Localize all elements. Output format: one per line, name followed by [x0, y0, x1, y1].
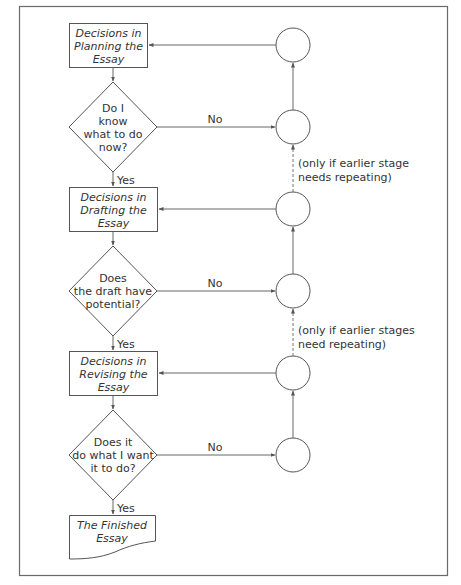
yes-label: Yes	[116, 174, 135, 187]
process-box-revising: Decisions in Revising the Essay	[70, 352, 158, 396]
connector-circle-2	[276, 110, 310, 144]
no-label: No	[208, 277, 223, 290]
decision-text-line: Does	[99, 272, 127, 285]
note-text-line: (only if earlier stage	[298, 157, 409, 170]
connector-circle-5	[276, 356, 310, 390]
box-text-line: Essay	[98, 217, 130, 230]
decision-text-line: now?	[99, 141, 128, 154]
box-text-line: Decisions in	[75, 27, 141, 40]
note-text-line: need repeating)	[298, 338, 386, 351]
decision-text-line: the draft have	[74, 285, 153, 298]
connector-circle-3	[276, 192, 310, 226]
box-text-line: Essay	[98, 381, 130, 394]
no-label: No	[208, 113, 223, 126]
no-label: No	[208, 441, 223, 454]
yes-label: Yes	[116, 502, 135, 515]
box-text-line: Decisions in	[80, 355, 146, 368]
decision-diamond-draft-potential: Does the draft have potential?	[69, 246, 157, 336]
note-earlier-stage: (only if earlier stage needs repeating)	[298, 157, 409, 184]
decision-text-line: potential?	[86, 298, 141, 311]
connector-circle-6	[276, 438, 310, 472]
decision-text-line: it to do?	[91, 462, 136, 475]
decision-text-line: what to do	[84, 128, 143, 141]
connector-circle-1	[276, 28, 310, 62]
decision-diamond-does-what-i-want: Does it do what I want it to do?	[69, 410, 157, 500]
decision-text-line: know	[98, 115, 127, 128]
terminal-text-line: The Finished	[77, 519, 148, 532]
flowchart: Decisions in Planning the Essay Do I kno…	[0, 0, 461, 585]
yes-label: Yes	[116, 338, 135, 351]
box-text-line: Revising the	[79, 368, 147, 381]
decision-text-line: Do I	[102, 102, 124, 115]
process-box-drafting: Decisions in Drafting the Essay	[70, 188, 158, 232]
process-box-planning: Decisions in Planning the Essay	[70, 24, 148, 68]
decision-diamond-know-what-to-do: Do I know what to do now?	[69, 82, 157, 172]
box-text-line: Drafting the	[80, 204, 147, 217]
terminal-text-line: Essay	[96, 532, 128, 545]
box-text-line: Essay	[93, 53, 125, 66]
note-text-line: needs repeating)	[298, 171, 392, 184]
note-earlier-stages: (only if earlier stages need repeating)	[298, 324, 415, 351]
box-text-line: Decisions in	[80, 191, 146, 204]
decision-text-line: do what I want	[72, 449, 154, 462]
connector-circle-4	[276, 274, 310, 308]
decision-text-line: Does it	[94, 436, 133, 449]
box-text-line: Planning the	[74, 40, 143, 53]
document-shape-finished-essay: The Finished Essay	[70, 516, 156, 560]
note-text-line: (only if earlier stages	[298, 324, 415, 337]
